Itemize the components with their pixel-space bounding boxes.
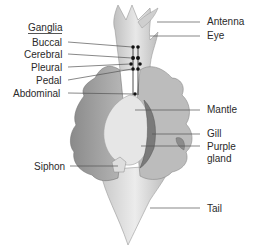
label-cerebral: Cerebral [24, 49, 62, 60]
label-tail: Tail [207, 203, 222, 214]
label-purple-gland-1: Purple [207, 141, 236, 152]
label-gill: Gill [207, 128, 221, 139]
label-purple-gland-2: gland [207, 153, 231, 164]
label-pedal: Pedal [36, 75, 62, 86]
label-siphon: Siphon [34, 161, 65, 172]
label-mantle: Mantle [207, 104, 237, 115]
aplysia-diagram: Ganglia Buccal Cerebral Pleural Pedal Ab… [0, 0, 255, 250]
label-buccal: Buccal [32, 37, 62, 48]
label-abdominal: Abdominal [13, 88, 60, 99]
label-pleural: Pleural [31, 62, 62, 73]
label-eye: Eye [207, 30, 224, 41]
ganglia-group-title: Ganglia [28, 22, 62, 34]
label-antenna: Antenna [207, 16, 244, 27]
